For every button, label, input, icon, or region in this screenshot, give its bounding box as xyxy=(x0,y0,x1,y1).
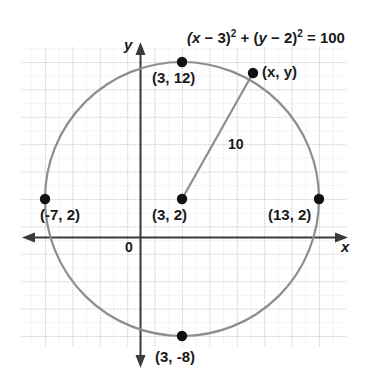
point-xy xyxy=(248,68,258,78)
point-left-label: (-7, 2) xyxy=(40,207,80,222)
point-xy-label: (x, y) xyxy=(262,64,297,79)
equation-term2: − 2) xyxy=(267,29,297,46)
origin-label: 0 xyxy=(125,240,133,254)
point-left xyxy=(40,194,50,204)
x-axis-label: x xyxy=(341,239,349,254)
point-right xyxy=(314,194,324,204)
equation-label: (x − 3)2 + (y − 2)2 = 100 xyxy=(187,30,345,45)
point-center-label: (3, 2) xyxy=(152,207,187,222)
equation-tail: = 100 xyxy=(303,29,345,46)
point-right-label: (13, 2) xyxy=(268,207,311,222)
point-center xyxy=(177,194,187,204)
equation-plus: + ( xyxy=(236,29,258,46)
circle-graph-figure: (x − 3)2 + (y − 2)2 = 100 y x 0 (3, 12) … xyxy=(0,0,370,380)
y-axis-label: y xyxy=(124,37,132,52)
radius-length-label: 10 xyxy=(228,137,244,151)
point-bottom xyxy=(177,331,187,341)
point-bottom-label: (3, -8) xyxy=(155,349,195,364)
coordinate-plane-svg xyxy=(0,0,370,380)
equation-term1: − 3) xyxy=(200,29,230,46)
point-top xyxy=(177,57,187,67)
point-top-label: (3, 12) xyxy=(152,70,195,85)
equation-var-y: y xyxy=(258,29,266,46)
